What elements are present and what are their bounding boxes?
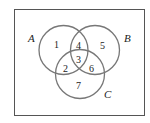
- set-label-a: A: [27, 32, 35, 44]
- region-1: 1: [54, 39, 59, 50]
- region-3: 3: [76, 54, 81, 65]
- set-label-b: B: [124, 32, 131, 44]
- set-label-c: C: [104, 88, 112, 100]
- region-5: 5: [100, 40, 105, 51]
- region-2: 2: [63, 63, 68, 74]
- region-7: 7: [76, 80, 81, 91]
- region-6: 6: [89, 63, 94, 74]
- venn-diagram: A B C 1 2 3 4 5 6 7: [0, 0, 150, 123]
- region-4: 4: [76, 40, 81, 51]
